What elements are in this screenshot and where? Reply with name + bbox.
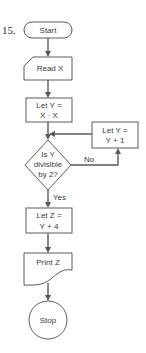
decision-line3: by 2?	[38, 170, 58, 179]
arrowhead	[45, 295, 51, 301]
start-node: Start	[24, 22, 72, 38]
no-label: No	[84, 155, 95, 164]
yes-label: Yes	[53, 193, 66, 202]
print-node: Print Z	[24, 253, 72, 285]
let-y-increment-node: Let Y = Y + 1	[92, 122, 138, 148]
edge-no	[71, 153, 118, 165]
read-node: Read X	[24, 57, 72, 80]
let-y-square-line2: X · X	[40, 111, 58, 120]
arrowhead	[45, 92, 51, 98]
let-z-line2: Y + 4	[40, 222, 59, 231]
let-z-node: Let Z = Y + 4	[26, 208, 72, 233]
flowchart: 15. Start Read X Let Y = X · X Let Y = Y…	[0, 0, 146, 353]
problem-number: 15.	[2, 24, 16, 36]
arrowhead	[45, 247, 51, 253]
stop-label: Stop	[40, 316, 57, 325]
let-y-square-node: Let Y = X · X	[26, 98, 72, 122]
stop-node: Stop	[29, 301, 67, 339]
read-label: Read X	[37, 64, 64, 73]
arrowhead	[45, 202, 51, 208]
start-label: Start	[40, 26, 58, 35]
decision-node: Is Y divisible by 2?	[25, 140, 71, 190]
print-label: Print Z	[36, 258, 60, 267]
decision-line1: Is Y	[41, 150, 55, 159]
arrowhead	[45, 51, 51, 57]
let-y-square-line1: Let Y =	[36, 101, 62, 110]
decision-line2: divisible	[34, 160, 63, 169]
arrowhead	[115, 148, 121, 154]
let-y-increment-line2: Y + 1	[106, 136, 125, 145]
let-z-line1: Let Z =	[36, 211, 61, 220]
let-y-increment-line1: Let Y =	[102, 126, 128, 135]
arrowhead	[45, 134, 51, 140]
